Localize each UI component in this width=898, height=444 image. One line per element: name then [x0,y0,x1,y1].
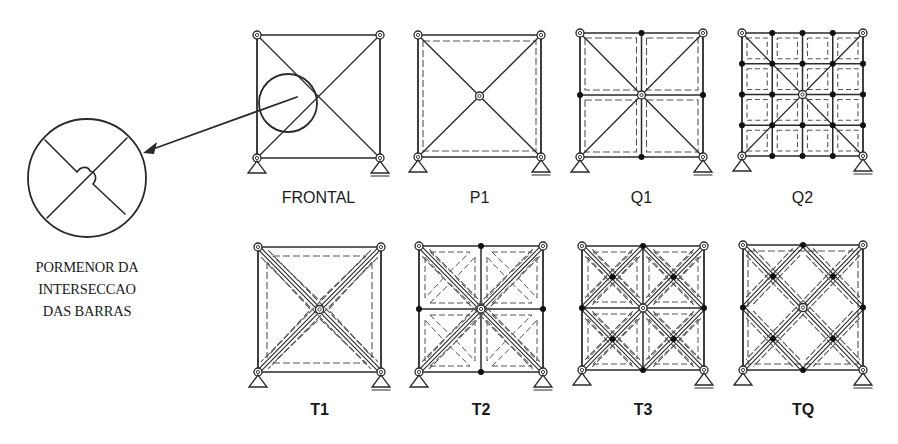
center-hinge-icon [639,304,647,312]
hinge-node-icon [699,29,707,37]
detail-bar-upper-segment [45,140,77,172]
rigid-node-icon [610,336,616,342]
rigid-node-icon [830,336,836,342]
dashed-cell-outline [808,38,828,59]
rigid-node-icon [860,122,866,128]
dashed-cell-outline [777,38,797,59]
dashed-cell-outline [777,130,797,151]
hinge-node-icon [414,31,422,39]
hinge-node-icon [415,242,423,250]
rigid-node-icon [671,336,677,342]
detail-caption-line-1: PORMENOR DA [36,256,139,278]
pinned-support-icon [571,160,589,172]
hinge-node-icon [539,242,547,250]
rigid-node-icon [478,243,484,249]
rigid-node-icon [769,122,775,128]
frame-panel-frontal [248,31,389,176]
label-t3: T3 [634,402,653,418]
dashed-triangle [425,257,444,298]
structural-frames-diagram: PORMENOR DA INTERSECCAO DAS BARRAS FRONT… [0,0,898,444]
rigid-node-icon [769,61,775,67]
rigid-node-icon [577,92,583,98]
pinned-support-icon [734,373,752,385]
hinge-node-icon [254,243,262,251]
detail-source-circle [259,74,317,132]
roller-support-icon [371,161,389,173]
rigid-node-icon [830,92,836,98]
center-hinge-icon [799,304,807,312]
hinge-node-icon [700,242,708,250]
hinge-node-icon [739,241,747,249]
detail-bar-lower-segment [93,184,125,214]
rigid-node-icon [700,92,706,98]
roller-support-icon [695,373,713,385]
pinned-support-icon [410,375,428,387]
frame-panel-t1 [249,243,390,390]
detail-notch [77,167,96,184]
rigid-node-icon [739,61,745,67]
rigid-node-icon [800,122,806,128]
rigid-node-icon [640,367,646,373]
hinge-node-icon [537,31,545,39]
detail-caption-line-3: DAS BARRAS [36,300,139,322]
rigid-node-icon [640,243,646,249]
rigid-node-icon [740,305,746,311]
center-hinge-icon [476,92,484,100]
rigid-node-icon [478,369,484,375]
rigid-node-icon [610,274,616,280]
dashed-cell-outline [747,69,767,90]
hinge-node-icon [377,243,385,251]
frame-panel-q2 [733,29,872,174]
dashed-cell-outline [838,69,858,90]
frame-panel-t2 [410,242,552,390]
frame-panel-q1 [571,29,712,175]
center-hinge-icon [477,305,485,313]
rigid-node-icon [639,154,645,160]
label-t1: T1 [310,402,329,418]
center-hinge-icon [638,91,646,99]
hinge-node-icon [738,29,746,37]
hinge-node-icon [253,31,261,39]
pinned-support-icon [249,375,267,387]
rigid-node-icon [540,306,546,312]
rigid-node-icon [770,273,776,279]
roller-support-icon [372,375,390,387]
frame-panel-p1 [409,31,550,175]
roller-support-icon [534,375,552,387]
dashed-triangle [487,257,506,298]
rigid-node-icon [769,30,775,36]
pinned-support-icon [248,161,266,173]
diagram-canvas [0,0,898,444]
rigid-node-icon [830,153,836,159]
rigid-node-icon [639,30,645,36]
rigid-node-icon [416,306,422,312]
center-hinge-icon [799,91,807,99]
rigid-node-icon [830,122,836,128]
rigid-node-icon [800,367,806,373]
detail-arrow-line [153,97,297,149]
rigid-node-icon [800,153,806,159]
dashed-cell-outline [747,100,767,121]
rigid-node-icon [800,30,806,36]
intersection-detail [28,119,146,237]
label-frontal: FRONTAL [282,190,355,206]
rigid-node-icon [830,30,836,36]
dashed-triangle [425,320,444,361]
hinge-node-icon [376,31,384,39]
dashed-cell-outline [838,100,858,121]
roller-support-icon [532,160,550,172]
rigid-node-icon [830,273,836,279]
label-q2: Q2 [792,190,813,206]
rigid-node-icon [800,242,806,248]
arrowhead-icon [143,142,157,154]
rigid-node-icon [739,92,745,98]
hinge-node-icon [576,29,584,37]
rigid-node-icon [830,61,836,67]
hinge-node-icon [859,241,867,249]
rigid-node-icon [800,61,806,67]
pinned-support-icon [573,373,591,385]
dashed-cell-outline [808,130,828,151]
rigid-node-icon [671,274,677,280]
rigid-node-icon [860,61,866,67]
dashed-triangle [487,320,506,361]
